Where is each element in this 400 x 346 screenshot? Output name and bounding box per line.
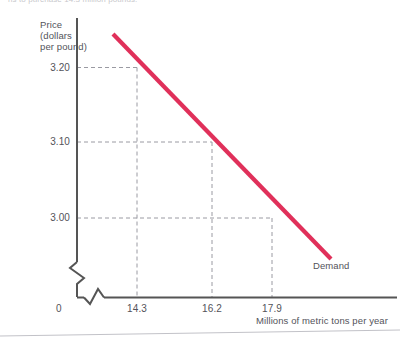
y-axis-break-icon bbox=[70, 262, 84, 297]
demand-curve-label: Demand bbox=[313, 260, 350, 271]
origin-label: 0 bbox=[56, 303, 62, 314]
y-axis-tick-label-3-00: 3.00 bbox=[24, 212, 70, 223]
y-axis-title-line-3: per pound) bbox=[40, 41, 87, 52]
x-axis-title: Millions of metric tons per year bbox=[256, 315, 388, 326]
y-axis-title: Price(dollarsper pound) bbox=[40, 19, 87, 52]
demand-curve-line bbox=[113, 34, 331, 259]
page-edge-artifact bbox=[0, 330, 400, 336]
y-axis-tick-label-3-20: 3.20 bbox=[24, 62, 70, 73]
chart-page: ns to purchase 14.3 million pounds. Pric… bbox=[0, 0, 400, 346]
y-axis-tick-label-3-10: 3.10 bbox=[24, 136, 70, 147]
x-axis-tick-label-14-3: 14.3 bbox=[117, 303, 157, 314]
y-axis-title-line-2: (dollars bbox=[40, 30, 72, 41]
page-caption-cropped: ns to purchase 14.3 million pounds. bbox=[8, 0, 137, 4]
x-axis-tick-label-17-9: 17.9 bbox=[252, 303, 292, 314]
x-axis-tick-label-16-2: 16.2 bbox=[192, 303, 232, 314]
x-axis-break-icon bbox=[84, 289, 104, 304]
y-axis-title-line-1: Price bbox=[40, 19, 62, 30]
